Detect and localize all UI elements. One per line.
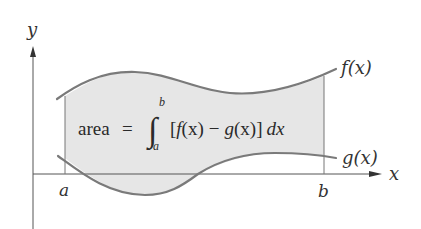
area-between-curves-diagram: y x a b f(x) g(x) area = ∫ b a [f(x)−g(x… xyxy=(0,0,421,229)
bound-label-a: a xyxy=(59,180,69,200)
formula-lhs: area xyxy=(78,118,110,139)
x-axis-label: x xyxy=(389,163,399,184)
x-axis-arrow-icon xyxy=(369,171,382,177)
formula-integrand: [f(x)−g(x)]dx xyxy=(170,118,285,140)
integral-lower-limit: a xyxy=(153,139,159,153)
integral-upper-limit: b xyxy=(159,95,165,109)
curve-g-label: g(x) xyxy=(342,147,378,168)
formula-equals: = xyxy=(122,118,133,139)
y-axis-arrow-icon xyxy=(30,46,36,57)
bound-label-b: b xyxy=(318,181,329,201)
curve-f-label: f(x) xyxy=(339,57,372,78)
y-axis-label: y xyxy=(26,19,38,40)
